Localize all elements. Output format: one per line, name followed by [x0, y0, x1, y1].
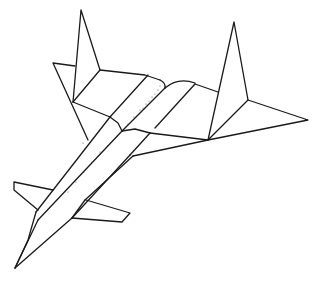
right-wing [133, 84, 308, 156]
left-wing [53, 63, 160, 140]
left-tail-fin [73, 10, 100, 102]
right-tail-fin [208, 22, 248, 140]
aircraft-drawing [0, 0, 325, 283]
fuselage [15, 75, 195, 268]
right-canard [72, 200, 130, 222]
left-canard [14, 182, 53, 210]
